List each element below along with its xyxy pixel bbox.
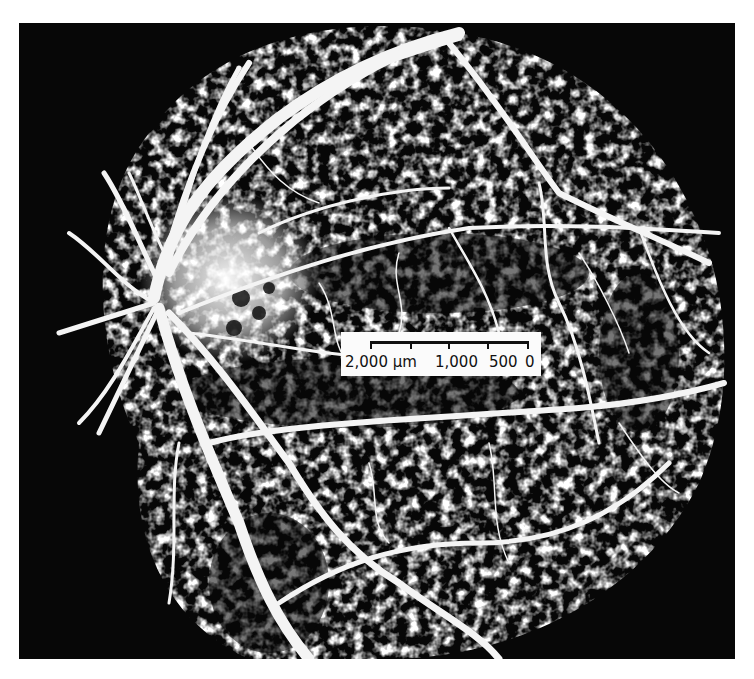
scale-tick-1500 (410, 341, 412, 349)
scale-tick-0 (527, 341, 529, 349)
scale-label-1000: 1,000 (435, 353, 478, 371)
figure-page: 2,000 μm 1,000 500 0 (0, 0, 754, 679)
fundus-angiogram-photo: 2,000 μm 1,000 500 0 (19, 23, 735, 659)
scale-bar: 2,000 μm 1,000 500 0 (341, 332, 541, 376)
scale-tick-1000 (448, 341, 450, 349)
scale-tick-2000 (370, 341, 372, 349)
scale-bar-labels: 2,000 μm 1,000 500 0 (345, 353, 541, 373)
scale-tick-500 (487, 341, 489, 349)
scale-label-2000: 2,000 μm (345, 353, 417, 371)
scale-label-0: 0 (525, 353, 535, 371)
scale-label-500: 500 (489, 353, 518, 371)
